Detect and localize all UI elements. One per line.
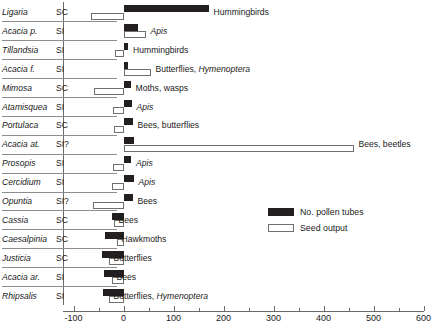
breeding-system-label: SI: [56, 154, 86, 173]
taxon-label: Portulaca: [2, 116, 64, 135]
legend-swatch-outline-icon: [268, 224, 294, 232]
taxon-label: Justicia: [2, 249, 64, 268]
taxon-label: Caesalpinia: [2, 230, 64, 249]
axis-tick-minor: [399, 308, 400, 311]
axis-tick-minor: [199, 308, 200, 311]
breeding-system-label: SI: [56, 173, 86, 192]
axis-tick-major: [324, 306, 325, 311]
axis-tick-label: 200: [204, 313, 244, 324]
taxon-label: Acacia ar.: [2, 268, 64, 287]
legend-swatch-filled-icon: [268, 208, 294, 216]
table-row: JusticiaSC: [0, 249, 424, 268]
taxon-label: Atamisquea: [2, 98, 64, 117]
axis-tick-major: [274, 306, 275, 311]
axis-tick-major: [74, 306, 75, 311]
axis-tick-major: [174, 306, 175, 311]
taxon-label: Prosopis: [2, 154, 64, 173]
axis-tick-major: [124, 306, 125, 311]
breeding-system-label: SI: [56, 22, 86, 41]
axis-tick-minor: [349, 308, 350, 311]
table-row: MimosaSC: [0, 79, 424, 98]
breeding-system-label: SI?: [56, 192, 86, 211]
breeding-system-label: SC: [56, 249, 86, 268]
legend-label-seed-output: Seed output: [300, 222, 347, 234]
breeding-system-label: SI: [56, 60, 86, 79]
taxon-label: Ligaria: [2, 3, 64, 22]
table-row: PortulacaSC: [0, 116, 424, 135]
axis-tick-label: 300: [254, 313, 294, 324]
breeding-system-label: SI: [56, 268, 86, 287]
axis-tick-minor: [149, 308, 150, 311]
table-row: Acacia ar.SI: [0, 268, 424, 287]
axis-tick-major: [374, 306, 375, 311]
taxon-label: Opuntia: [2, 192, 64, 211]
table-row: TillandsiaSI: [0, 41, 424, 60]
taxon-label: Acacia f.: [2, 60, 64, 79]
taxon-label: Acacia p.: [2, 22, 64, 41]
breeding-system-label: SC: [56, 116, 86, 135]
table-row: ProsopisSI: [0, 154, 424, 173]
table-row: Acacia f.SI: [0, 60, 424, 79]
axis-tick-label: 400: [304, 313, 344, 324]
breeding-system-label: SI?: [56, 135, 86, 154]
axis-tick-label: 0: [104, 313, 144, 324]
axis-tick-label: 600: [404, 313, 436, 324]
axis-tick-minor: [249, 308, 250, 311]
table-row: CaesalpiniaSC: [0, 230, 424, 249]
taxon-label: Cassia: [2, 211, 64, 230]
axis-tick-minor: [99, 308, 100, 311]
x-axis-line: [63, 311, 424, 312]
taxon-label: Tillandsia: [2, 41, 64, 60]
breeding-system-label: SI: [56, 41, 86, 60]
axis-tick-label: 100: [154, 313, 194, 324]
table-row: Acacia p.SI: [0, 22, 424, 41]
breeding-system-label: SC: [56, 211, 86, 230]
table-row: CercidiumSI: [0, 173, 424, 192]
axis-tick-major: [424, 306, 425, 311]
axis-tick-major: [224, 306, 225, 311]
taxon-label: Cercidium: [2, 173, 64, 192]
table-row: RhipsalisSI: [0, 287, 424, 306]
legend-label-pollen-tubes: No. pollen tubes: [300, 206, 364, 218]
taxon-label: Mimosa: [2, 79, 64, 98]
table-row: Acacia at.SI?: [0, 135, 424, 154]
breeding-system-label: SC: [56, 230, 86, 249]
taxon-label: Rhipsalis: [2, 287, 64, 306]
breeding-system-label: SC: [56, 3, 86, 22]
table-row: AtamisqueaSI: [0, 98, 424, 117]
breeding-system-label: SI: [56, 98, 86, 117]
axis-tick-label: 500: [354, 313, 394, 324]
axis-tick-label: -100: [54, 313, 94, 324]
axis-tick-minor: [299, 308, 300, 311]
taxon-label: Acacia at.: [2, 135, 64, 154]
breeding-system-label: SC: [56, 79, 86, 98]
breeding-system-label: SI: [56, 287, 86, 306]
table-row: LigariaSC: [0, 3, 424, 22]
